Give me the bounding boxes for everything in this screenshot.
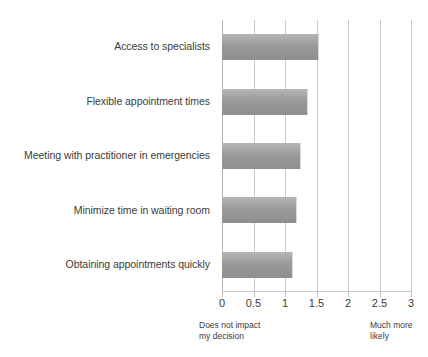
axis-tick-label: 2.5	[372, 297, 387, 309]
plot-area	[222, 20, 411, 292]
bar-slot	[222, 238, 411, 292]
bar	[222, 252, 293, 278]
bar	[222, 34, 319, 60]
bar-chart: Access to specialists Flexible appointme…	[0, 0, 428, 357]
scale-high-annotation: Much more likely	[370, 320, 413, 343]
category-label: Flexible appointment times	[0, 74, 216, 128]
category-axis-labels: Access to specialists Flexible appointme…	[0, 20, 216, 292]
category-label: Meeting with practitioner in emergencies	[0, 129, 216, 183]
axis-tick-label: 1.5	[309, 297, 324, 309]
category-label: Obtaining appointments quickly	[0, 238, 216, 292]
bar-slot	[222, 74, 411, 128]
bar	[222, 143, 301, 169]
scale-low-annotation: Does not impact my decision	[199, 320, 260, 343]
value-axis-tick-labels: 00.511.522.53	[222, 297, 411, 313]
category-label: Access to specialists	[0, 20, 216, 74]
bar-slot	[222, 129, 411, 183]
axis-tick-label: 2	[345, 297, 351, 309]
bar	[222, 89, 308, 115]
axis-tick-label: 0.5	[246, 297, 261, 309]
bar-series	[222, 20, 411, 292]
gridline	[411, 20, 412, 292]
axis-tick-label: 3	[408, 297, 414, 309]
axis-tick-label: 1	[282, 297, 288, 309]
category-label: Minimize time in waiting room	[0, 183, 216, 237]
bar-slot	[222, 20, 411, 74]
bar-slot	[222, 183, 411, 237]
axis-tick-label: 0	[219, 297, 225, 309]
bar	[222, 197, 297, 223]
